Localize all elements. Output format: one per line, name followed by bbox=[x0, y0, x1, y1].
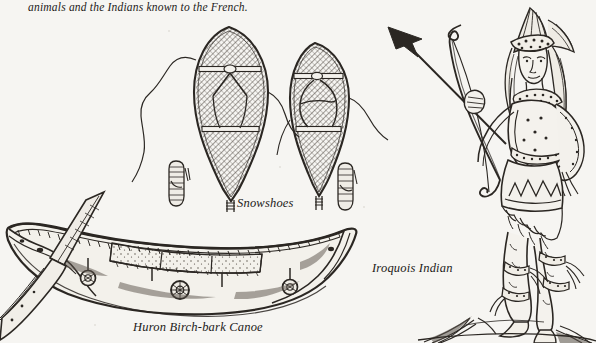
illustration-artwork bbox=[0, 0, 596, 343]
moccasin-left-figure bbox=[169, 161, 190, 206]
snowshoe-right-figure bbox=[277, 43, 388, 210]
illustration-plate: animals and the Indians known to the Fre… bbox=[0, 0, 596, 343]
label-huron-birch-bark-canoe: Huron Birch-bark Canoe bbox=[133, 320, 263, 335]
headdress bbox=[511, 8, 574, 52]
iroquois-indian-figure bbox=[388, 8, 596, 343]
label-snowshoes: Snowshoes bbox=[237, 196, 294, 211]
moccasin-right-figure bbox=[338, 163, 357, 210]
snowshoe-left-figure bbox=[132, 27, 299, 212]
paper-speck bbox=[363, 206, 365, 208]
bow-and-arrow-figure bbox=[388, 25, 506, 197]
label-iroquois-indian: Iroquois Indian bbox=[372, 261, 453, 276]
paper-speck bbox=[168, 30, 170, 32]
paper-speck bbox=[279, 166, 281, 168]
paper-speck bbox=[94, 324, 96, 326]
